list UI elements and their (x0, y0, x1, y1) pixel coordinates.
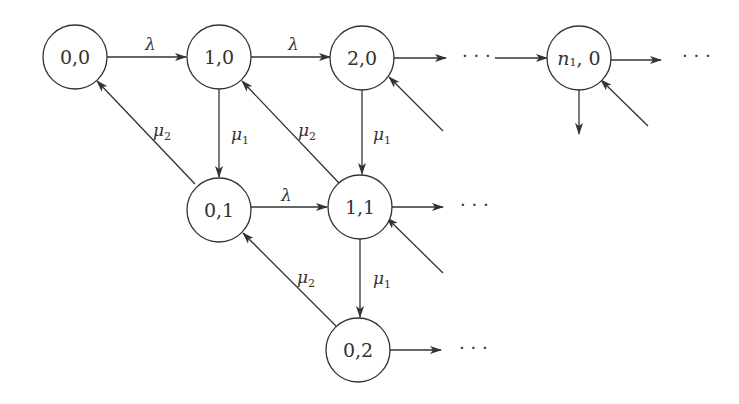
node-1-1: 1,1 (328, 175, 392, 239)
node-0-2: 0,2 (326, 318, 390, 382)
edge-in-n10 (601, 80, 648, 126)
svg-text:0,1: 0,1 (204, 199, 234, 221)
svg-text:0,2: 0,2 (343, 339, 373, 361)
node-1-0: 1,0 (187, 25, 251, 89)
label-lambda-01-11: λ (280, 185, 292, 205)
label-mu2-02-01: μ2 (297, 267, 315, 290)
node-n1-0: n1, 0 (547, 26, 611, 90)
svg-text:1,0: 1,0 (204, 46, 234, 68)
node-2-0: 2,0 (330, 26, 394, 90)
node-0-1: 0,1 (187, 178, 251, 242)
ellipsis-row0-end: · · · (682, 45, 711, 66)
svg-text:2,0: 2,0 (347, 47, 377, 69)
edge-in-20 (389, 77, 443, 131)
ellipsis-row0-mid: · · · (462, 45, 491, 66)
svg-text:n1, 0: n1, 0 (557, 47, 600, 69)
svg-text:1,1: 1,1 (345, 196, 375, 218)
label-mu1-11-02: μ1 (373, 268, 391, 291)
label-mu2-01-00: μ2 (153, 120, 171, 143)
ellipsis-row2-end: · · · (459, 337, 488, 358)
edge-02-01 (243, 233, 336, 326)
edge-01-00 (97, 81, 195, 184)
label-mu1-20-11: μ1 (373, 124, 391, 147)
label-lambda-00-10: λ (144, 34, 156, 54)
label-mu2-11-10: μ2 (298, 120, 316, 143)
ellipsis-row1-end: · · · (460, 194, 489, 215)
label-mu1-10-01: μ1 (231, 124, 249, 147)
label-lambda-10-20: λ (287, 34, 299, 54)
svg-text:0,0: 0,0 (60, 46, 90, 68)
edge-in-11 (387, 218, 443, 273)
node-0-0: 0,0 (43, 25, 107, 89)
edge-11-10 (242, 81, 339, 183)
state-diagram: · · · · · · · · · · · · λ λ λ μ1 μ1 μ1 μ… (0, 0, 739, 404)
